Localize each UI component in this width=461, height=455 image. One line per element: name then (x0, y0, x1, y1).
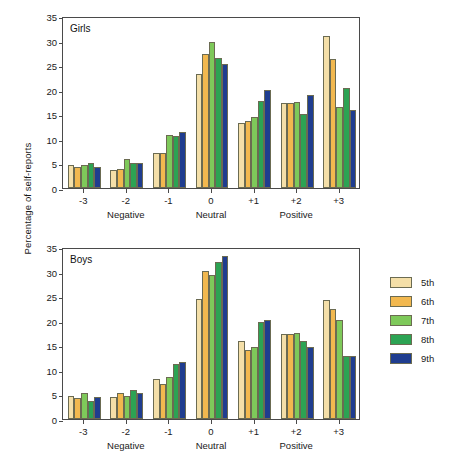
bar-boys-p3-6th (330, 309, 337, 419)
x-tick (168, 420, 169, 424)
chart-panel-boys: 05101520253035Boys-3-2-10+1+2+3NegativeN… (62, 248, 360, 455)
bar-girls--3-9th (94, 167, 101, 188)
bar-girls-p2-7th (294, 102, 301, 188)
bar-boys--1-7th (166, 377, 173, 419)
bar-girls-p3-8th (343, 88, 350, 188)
legend-item-9th[interactable]: 9th (390, 352, 434, 364)
bar-girls-0-6th (202, 54, 209, 188)
panel-title-boys: Boys (70, 254, 92, 265)
x-tick (296, 420, 297, 424)
bar-boys--3-5th (68, 396, 75, 419)
bar-girls-p2-8th (300, 114, 307, 188)
bar-boys--2-9th (137, 393, 144, 419)
plot-area-boys: 05101520253035 (62, 248, 360, 420)
y-tick-label: 10 (46, 367, 57, 377)
bar-boys-p1-8th (258, 322, 265, 419)
x-tick-label: 0 (208, 195, 213, 206)
y-tick (59, 372, 63, 373)
y-tick (59, 92, 63, 93)
x-tick-label: -2 (122, 195, 130, 206)
bar-boys--1-6th (160, 384, 167, 419)
bar-girls-0-8th (215, 58, 222, 188)
y-tick-label: 5 (52, 161, 57, 171)
bar-boys--2-6th (117, 393, 124, 419)
bar-boys-p3-9th (350, 356, 357, 419)
x-tick-label: +3 (333, 426, 344, 437)
x-tick-label: -1 (164, 195, 172, 206)
bar-boys--3-7th (81, 393, 88, 419)
x-tick (126, 189, 127, 193)
bar-girls-p1-9th (264, 90, 271, 188)
legend-swatch-icon-6th (390, 296, 412, 307)
legend-label: 5th (421, 277, 434, 288)
y-tick (59, 249, 63, 250)
y-tick-label: 35 (46, 13, 57, 23)
y-tick-label: 25 (46, 62, 57, 72)
legend-item-6th[interactable]: 6th (390, 295, 434, 307)
bar-girls--1-6th (160, 153, 167, 188)
x-tick-label: +3 (333, 195, 344, 206)
y-tick (59, 323, 63, 324)
bar-girls--3-5th (68, 165, 75, 188)
x-tick (296, 189, 297, 193)
y-tick (59, 141, 63, 142)
bar-girls--1-9th (179, 132, 186, 188)
bar-girls-p3-6th (330, 59, 337, 188)
bar-girls--2-6th (117, 169, 124, 188)
x-group-label-neutral: Neutral (196, 440, 227, 451)
x-tick-label: -3 (79, 426, 87, 437)
y-tick-label: 25 (46, 293, 57, 303)
bar-boys-p3-7th (336, 320, 343, 419)
bar-boys-p2-9th (307, 347, 314, 419)
legend-swatch-icon-9th (390, 353, 412, 364)
y-tick (59, 18, 63, 19)
bar-girls-p2-9th (307, 95, 314, 188)
x-group-label-positive: Positive (280, 440, 313, 451)
bar-girls-p2-6th (287, 103, 294, 188)
legend-label: 6th (421, 296, 434, 307)
x-group-label-positive: Positive (280, 209, 313, 220)
bar-girls--3-7th (81, 165, 88, 188)
bar-boys--3-9th (94, 397, 101, 419)
bar-boys-p3-8th (343, 356, 350, 419)
y-tick-label: 30 (46, 38, 57, 48)
y-tick-label: 10 (46, 136, 57, 146)
bar-girls-p1-5th (238, 123, 245, 188)
y-tick-label: 0 (52, 185, 57, 195)
bar-boys-p1-6th (245, 350, 252, 419)
y-tick (59, 67, 63, 68)
bar-girls-p3-7th (336, 107, 343, 188)
y-tick-label: 15 (46, 343, 57, 353)
bar-boys-p1-5th (238, 341, 245, 419)
bar-girls-p3-5th (323, 36, 330, 188)
y-tick-label: 5 (52, 392, 57, 402)
legend: 5th6th7th8th9th (390, 276, 456, 366)
bar-girls-p1-8th (258, 101, 265, 188)
y-tick (59, 421, 63, 422)
y-tick (59, 165, 63, 166)
y-tick (59, 347, 63, 348)
bar-girls--2-7th (124, 159, 131, 188)
x-tick-label: +1 (248, 195, 259, 206)
legend-label: 8th (421, 334, 434, 345)
plot-area-girls: 05101520253035 (62, 17, 360, 189)
bar-boys--2-5th (110, 397, 117, 419)
bar-boys-p2-7th (294, 333, 301, 419)
x-tick-label: -2 (122, 426, 130, 437)
x-tick-label: +1 (248, 426, 259, 437)
legend-item-7th[interactable]: 7th (390, 314, 434, 326)
x-tick (211, 189, 212, 193)
bar-boys-0-9th (222, 256, 229, 419)
bar-girls--2-8th (130, 163, 137, 188)
bar-girls-p3-9th (350, 110, 357, 188)
legend-item-8th[interactable]: 8th (390, 333, 434, 345)
bar-boys--3-6th (74, 398, 81, 419)
y-tick (59, 298, 63, 299)
y-tick-label: 20 (46, 87, 57, 97)
legend-swatch-icon-5th (390, 277, 412, 288)
bar-girls--1-7th (166, 135, 173, 188)
bar-girls--3-6th (74, 167, 81, 188)
legend-item-5th[interactable]: 5th (390, 276, 434, 288)
bar-boys-0-5th (196, 299, 203, 419)
